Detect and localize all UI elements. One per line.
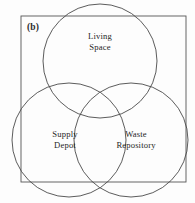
label-waste-repository-line2: Repository	[103, 140, 169, 151]
label-living-space-line1: Living	[70, 31, 130, 42]
label-supply-depot: Supply Depot	[35, 129, 95, 150]
label-supply-depot-line2: Depot	[35, 140, 95, 151]
label-waste-repository-line1: Waste	[103, 129, 169, 140]
label-living-space-line2: Space	[70, 42, 130, 53]
circle-living-space	[43, 4, 157, 118]
label-waste-repository: Waste Repository	[103, 129, 169, 150]
label-supply-depot-line1: Supply	[35, 129, 95, 140]
figure-panel: (b) Living Space Supply Depot Waste Repo…	[0, 0, 195, 203]
panel-label: (b)	[27, 22, 39, 32]
label-living-space: Living Space	[70, 31, 130, 52]
